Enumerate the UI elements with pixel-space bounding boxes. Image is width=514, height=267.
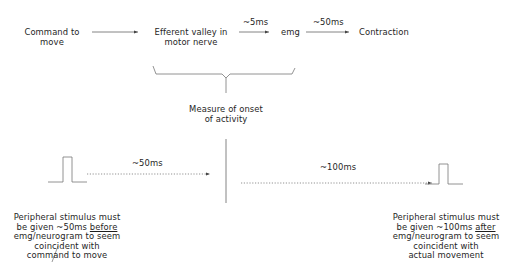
right-note-after: after xyxy=(475,222,495,232)
delay-50ms-label: ~50ms xyxy=(313,17,344,27)
contraction-label: Contraction xyxy=(359,27,409,37)
left-timing-label: ~50ms xyxy=(132,158,163,168)
right-timing-label: ~100ms xyxy=(320,162,356,172)
command-to-move-label: Command to move xyxy=(22,27,82,47)
left-note-line5: command to move xyxy=(12,251,122,261)
measure-line2: of activity xyxy=(180,114,272,124)
command-line1: Command to xyxy=(22,27,82,37)
brace xyxy=(153,66,295,78)
right-note: Peripheral stimulus must be given ~100ms… xyxy=(390,213,502,261)
efferent-line2: motor nerve xyxy=(150,37,232,47)
measure-of-onset-label: Measure of onset of activity xyxy=(180,104,272,124)
efferent-volley-label: Efferent valley in motor nerve xyxy=(150,27,232,47)
left-note-before: before xyxy=(90,222,118,232)
timing-diagram: Command to move Efferent valley in motor… xyxy=(0,0,514,267)
efferent-line1: Efferent valley in xyxy=(150,27,232,37)
left-note-line2-text: be given ~50ms xyxy=(17,222,90,232)
right-note-line5: actual movement xyxy=(390,251,502,261)
emg-label: emg xyxy=(281,27,300,37)
command-line2: move xyxy=(22,37,82,47)
right-stimulus-pulse xyxy=(425,164,463,184)
measure-line1: Measure of onset xyxy=(180,104,272,114)
left-stimulus-pulse xyxy=(48,157,87,182)
right-note-line2-text: be given ~100ms xyxy=(397,222,476,232)
delay-5ms-label: ~5ms xyxy=(243,17,268,27)
left-note: Peripheral stimulus must be given ~50ms … xyxy=(12,213,122,261)
